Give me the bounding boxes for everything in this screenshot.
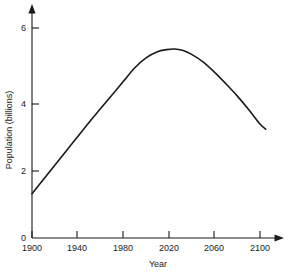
y-tick-label-4: 4: [21, 99, 26, 109]
x-tick-label-2060: 2060: [204, 243, 224, 253]
y-axis-arrow-icon: [28, 4, 35, 14]
x-tick-label-2100: 2100: [250, 243, 270, 253]
x-tick-label-1940: 1940: [67, 243, 87, 253]
y-tick-label-2: 2: [21, 166, 26, 176]
population-projection-chart: 6 4 2 0 1900 1940 1980 2020 2060 2100 Ye…: [0, 0, 290, 275]
population-curve: [32, 49, 266, 194]
x-tick-label-1900: 1900: [22, 243, 42, 253]
x-tick-label-1980: 1980: [113, 243, 133, 253]
y-axis-title: Population (billions): [4, 91, 14, 170]
chart-plot-area: 6 4 2 0 1900 1940 1980 2020 2060 2100 Ye…: [0, 0, 290, 275]
x-axis-arrow-icon: [275, 234, 285, 241]
x-axis-title: Year: [149, 259, 167, 269]
y-tick-label-6: 6: [21, 23, 26, 33]
y-tick-label-0: 0: [21, 233, 26, 243]
x-tick-label-2020: 2020: [159, 243, 179, 253]
